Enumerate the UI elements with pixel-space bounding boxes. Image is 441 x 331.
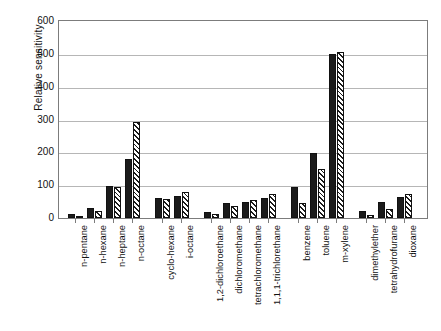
x-axis-label-wrap: tetrahydrofurane — [376, 223, 395, 328]
x-axis-label-wrap: n-octane — [123, 223, 142, 328]
bar — [163, 199, 170, 218]
y-axis-tick-label: 500 — [37, 49, 54, 59]
bar-category — [123, 21, 142, 218]
y-axis-tick-label: 400 — [37, 82, 54, 92]
plot-area — [58, 20, 428, 219]
bar — [386, 209, 393, 218]
bar-category — [240, 21, 259, 218]
bar — [87, 208, 94, 218]
bar-category — [66, 21, 85, 218]
bar-category — [259, 21, 278, 218]
x-axis-label-wrap: 1,1,1-trichlorethane — [259, 223, 278, 328]
bar — [291, 187, 298, 218]
x-axis-label: dioxane — [409, 225, 418, 258]
x-axis-label: i-octane — [186, 225, 195, 258]
x-axis-label-wrap: dioxane — [395, 223, 414, 328]
bar — [125, 159, 132, 218]
y-axis-tick-label: 100 — [37, 180, 54, 190]
bar — [76, 216, 83, 218]
bar-category — [308, 21, 327, 218]
bar — [367, 215, 374, 218]
bar-category — [395, 21, 414, 218]
bar — [299, 203, 306, 218]
bar — [261, 198, 268, 218]
bar — [269, 194, 276, 218]
relative-sensitivity-bar-chart: Relative sensitivity 0100200300400500600… — [0, 0, 441, 331]
bar-group — [202, 21, 278, 218]
bar — [250, 200, 257, 218]
bar-category — [221, 21, 240, 218]
bar-category — [85, 21, 104, 218]
bar — [223, 203, 230, 218]
bar — [405, 194, 412, 218]
bar — [242, 202, 249, 218]
bar — [318, 169, 325, 218]
bar-category — [357, 21, 376, 218]
x-axis-label-wrap: i-octane — [172, 223, 191, 328]
bar — [182, 192, 189, 218]
bar — [212, 214, 219, 218]
bar-group — [66, 21, 142, 218]
x-axis-category-labels: n-pentanen-hexanen-heptanen-octanecyclo-… — [58, 223, 428, 328]
bar — [106, 186, 113, 218]
x-axis-label-wrap: n-hexane — [85, 223, 104, 328]
x-axis-label-wrap: benzene — [289, 223, 308, 328]
x-axis-label: m-xylene — [341, 225, 350, 263]
bar-category — [104, 21, 123, 218]
bar-group — [289, 21, 346, 218]
x-axis-label-wrap: dimethylether — [357, 223, 376, 328]
bar — [310, 153, 317, 218]
y-axis-tick-label: 200 — [37, 147, 54, 157]
bar — [359, 211, 366, 218]
bar — [378, 202, 385, 218]
bar — [174, 196, 181, 218]
bar — [204, 212, 211, 218]
x-axis-label-wrap: toluene — [308, 223, 327, 328]
x-axis-label: n-octane — [137, 225, 146, 261]
x-axis-label-wrap: n-heptane — [104, 223, 123, 328]
bar — [329, 54, 336, 218]
x-axis-label-wrap: n-pentane — [66, 223, 85, 328]
y-axis-tick-label: 0 — [48, 213, 54, 223]
x-axis-label-wrap: 1,2-dichloroethane — [202, 223, 221, 328]
bar — [114, 187, 121, 218]
bar — [68, 214, 75, 218]
bar-group — [357, 21, 414, 218]
bar — [337, 52, 344, 218]
bar — [155, 198, 162, 218]
y-axis-tick-labels: 0100200300400500600 — [20, 20, 54, 219]
bar-category — [289, 21, 308, 218]
bar — [133, 122, 140, 218]
x-axis-label-wrap: dichloromethane — [221, 223, 240, 328]
bar-category — [153, 21, 172, 218]
bar-category — [327, 21, 346, 218]
x-axis-label-wrap: cyclo-hexane — [153, 223, 172, 328]
bar-category — [172, 21, 191, 218]
x-axis-label-wrap: m-xylene — [327, 223, 346, 328]
bar — [95, 211, 102, 218]
bar-category — [376, 21, 395, 218]
bar-series-container — [59, 21, 427, 218]
y-axis-tick-label: 600 — [37, 16, 54, 26]
x-axis-label-wrap: tetrachloromethane — [240, 223, 259, 328]
bar-group — [153, 21, 191, 218]
bar — [231, 206, 238, 218]
bar — [397, 197, 404, 218]
bar-category — [202, 21, 221, 218]
x-axis-label: 1,1,1-trichlorethane — [273, 225, 282, 305]
y-axis-tick-label: 300 — [37, 115, 54, 125]
